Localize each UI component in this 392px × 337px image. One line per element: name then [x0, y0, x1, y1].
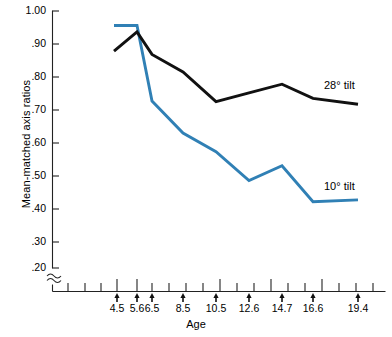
- chart-background: [0, 0, 392, 337]
- y-tick-label-0-80: .80: [12, 71, 46, 81]
- chart-figure: Mean-matched axis ratios Age 1.00 .90 .8…: [0, 0, 392, 337]
- y-tick-label-0-20: .20: [12, 262, 46, 272]
- series-label-28deg: 28° tilt: [324, 79, 355, 91]
- line-chart-svg: [0, 0, 392, 337]
- y-tick-label-1-00: 1.00: [12, 5, 46, 15]
- y-tick-label-0-50: .50: [12, 170, 46, 180]
- x-axis-title: Age: [0, 318, 392, 330]
- series-label-10deg: 10° tilt: [324, 180, 355, 192]
- y-tick-label-0-90: .90: [12, 38, 46, 48]
- x-tick-label-16-6: 16.6: [293, 303, 333, 313]
- y-tick-label-0-60: .60: [12, 137, 46, 147]
- y-tick-label-0-30: .30: [12, 236, 46, 246]
- y-tick-label-0-70: .70: [12, 104, 46, 114]
- x-tick-label-19-4: 19.4: [338, 303, 378, 313]
- y-tick-label-0-40: .40: [12, 203, 46, 213]
